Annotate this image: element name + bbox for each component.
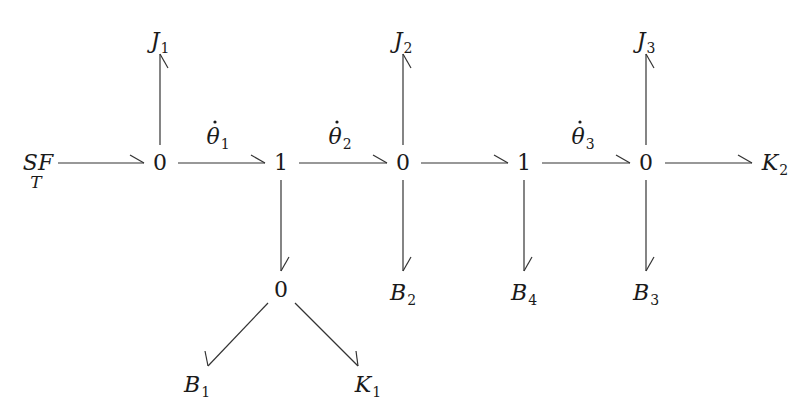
bond-z1-J1 <box>160 54 168 145</box>
half-arrow-icon <box>494 155 508 163</box>
node-B1: B1 <box>183 372 210 400</box>
node-J2: J2 <box>390 28 413 56</box>
node-K1: K1 <box>354 372 381 400</box>
bond-z2-J2 <box>403 54 411 145</box>
bonds-layer <box>58 54 752 366</box>
bond-label-th2: θ2 <box>328 120 351 152</box>
node-z1: 0 <box>153 150 167 175</box>
bond-label-th3: θ3 <box>571 120 594 152</box>
bond-o2-B4 <box>524 180 532 271</box>
node-B2: B2 <box>389 280 416 308</box>
bond-o1-z2 <box>299 155 387 163</box>
half-arrow-icon <box>403 54 411 68</box>
bond-line <box>208 303 268 366</box>
node-SF-sublabel: T <box>30 172 43 192</box>
bond-z2-o2 <box>421 155 508 163</box>
bond-z3-J3 <box>646 54 654 145</box>
node-o1: 1 <box>274 150 288 175</box>
bond-o2-z3 <box>542 155 630 163</box>
svg-text:θ2: θ2 <box>328 124 351 152</box>
bond-z4-B1 <box>205 303 268 366</box>
node-B4: B4 <box>510 280 537 308</box>
half-arrow-icon <box>251 155 265 163</box>
node-K2: K2 <box>761 150 788 178</box>
half-arrow-icon <box>646 257 654 271</box>
time-derivative-dot-icon <box>335 120 338 123</box>
bond-z1-o1 <box>178 155 265 163</box>
bond-line <box>295 303 358 366</box>
svg-text:θ3: θ3 <box>571 124 594 152</box>
node-z2: 0 <box>396 150 410 175</box>
half-arrow-icon <box>130 155 144 163</box>
half-arrow-icon <box>205 351 208 366</box>
node-z3: 0 <box>639 150 653 175</box>
svg-text:θ1: θ1 <box>206 124 229 152</box>
half-arrow-icon <box>646 54 654 68</box>
half-arrow-icon <box>616 155 630 163</box>
half-arrow-icon <box>524 257 532 271</box>
half-arrow-icon <box>373 155 387 163</box>
half-arrow-icon <box>281 257 289 271</box>
bond-z2-B2 <box>403 180 411 271</box>
bond-graph-diagram: SFT01010K2J1J2J30B1K1B2B4B3θ1θ2θ3 <box>0 0 808 411</box>
time-derivative-dot-icon <box>578 120 581 123</box>
node-z4: 0 <box>274 277 288 302</box>
bond-SF-z1 <box>58 155 144 163</box>
node-B3: B3 <box>632 280 659 308</box>
bond-z3-K2 <box>665 155 752 163</box>
half-arrow-icon <box>738 155 752 163</box>
node-J1: J1 <box>147 28 170 56</box>
labels-layer: SFT01010K2J1J2J30B1K1B2B4B3θ1θ2θ3 <box>23 28 788 400</box>
bond-z4-K1 <box>295 303 358 366</box>
bond-o1-z4 <box>281 180 289 271</box>
half-arrow-icon <box>403 257 411 271</box>
bond-label-th1: θ1 <box>206 120 229 152</box>
node-J3: J3 <box>633 28 656 56</box>
time-derivative-dot-icon <box>213 120 216 123</box>
bond-z3-B3 <box>646 180 654 271</box>
half-arrow-icon <box>160 54 168 68</box>
node-o2: 1 <box>517 150 531 175</box>
